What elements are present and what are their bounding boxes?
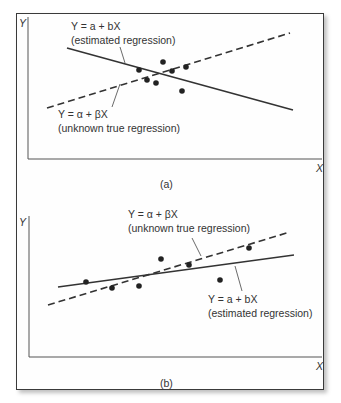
- panel-b-estimated-description: (estimated regression): [208, 307, 312, 319]
- panel-a-y-axis-label: Y: [19, 17, 26, 29]
- panel-a-estimated-description: (estimated regression): [71, 34, 175, 46]
- panel-a-caption: (a): [160, 178, 173, 190]
- panel-b-caption: (b): [160, 377, 173, 389]
- panel-a-true-equation: Y = α + βX: [58, 108, 108, 120]
- panel-b-true-leader: [192, 238, 201, 256]
- panel-a-x-axis-label: X: [316, 162, 323, 174]
- panel-b-x-axis-label: X: [316, 360, 323, 372]
- panel-a-true-description: (unknown true regression): [58, 122, 180, 134]
- panel-b-true-description: (unknown true regression): [128, 222, 250, 234]
- panel-b-axes: [29, 216, 322, 357]
- panel-b-estimated-equation: Y = a + bX: [208, 293, 257, 305]
- panel-a-estimated-equation: Y = a + bX: [71, 20, 120, 32]
- panel-b-true-equation: Y = α + βX: [128, 208, 178, 220]
- regression-diagram: [0, 0, 341, 403]
- panel-b-points: [83, 245, 252, 291]
- panel-a-points: [136, 59, 189, 94]
- panel-b-estimated-line: [58, 255, 294, 287]
- panel-b-y-axis-label: Y: [19, 216, 26, 228]
- panel-b-estimated-leader: [235, 266, 242, 291]
- panel-a-estimated-line: [67, 48, 293, 110]
- panel-a-estimated-leader: [120, 47, 125, 63]
